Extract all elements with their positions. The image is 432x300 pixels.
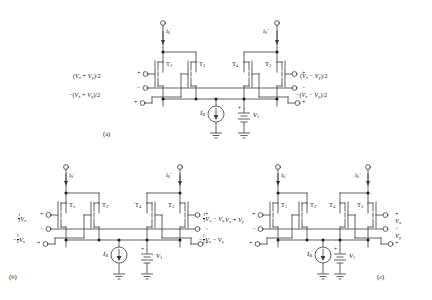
signal-label-a-right-top: (Vx − Vy)/2 [300,73,328,80]
terminal-polarity-plus-c-right-3: + [395,240,398,246]
terminal-polarity-plus-c-left-3: + [249,240,252,246]
voltage-source-plus-a: + [238,106,241,111]
figure-canvas: i0+ i0− T1 T2 T4 T3 + − + (Vx + Vy)/2 [0,0,432,300]
panel-tag-a: (a) [103,131,110,138]
panel-tag-b: (b) [9,274,17,281]
signal-label-b-right-bottom: −12Vx − Vy [199,234,224,245]
panel-tag-c: (c) [377,274,384,281]
panel-c: i0+ i0− T1 T2 T4 T3 + − + Vx + Vy + − [245,155,432,300]
terminal-polarity-minus-c-right-2: − [395,225,398,231]
current-label-i0m-c: i0− [355,172,362,179]
current-label-i0p-a: i0+ [166,28,173,35]
transistor-label-t2-b: T2 [102,202,108,209]
transistor-label-t3-c: T3 [357,202,363,209]
voltage-source-plus-c: + [334,247,337,252]
terminal-polarity-minus-b-left-2: − [40,225,43,231]
transistor-label-t1-b: T1 [69,202,75,209]
signal-label-b-left-bottom: −12Vx [13,234,25,245]
current-source-label-a: IB [200,110,205,117]
transistor-label-t3-a: T3 [265,61,271,68]
transistor-label-t2-a: T2 [199,61,205,68]
panel-b-schematic [0,155,250,300]
current-label-i0m-b: i0− [166,172,173,179]
terminal-polarity-plus-a-left-3: + [134,99,137,105]
signal-label-a-left-top: (Vx + Vy)/2 [73,73,101,80]
signal-label-c-right-vy: Vy [395,233,401,240]
panel-b: i0+ i0− T1 T2 T4 T3 + − + 12Vx −12Vx + − [0,155,250,300]
signal-label-a-right-bottom: −(Vx − Vy)/2 [296,92,327,99]
signal-label-a-left-bottom: −(Vx + Vy)/2 [69,92,100,99]
panel-a-schematic [0,0,432,150]
terminal-polarity-plus-c-left-1: + [252,211,255,217]
terminal-polarity-minus-a-right-2: − [302,84,305,90]
transistor-label-t2-c: T2 [310,202,316,209]
terminal-polarity-minus-b-right-2: − [205,225,208,231]
transistor-label-t3-b: T3 [168,202,174,209]
terminal-polarity-minus-a-left-2: − [137,84,140,90]
panel-a: i0+ i0− T1 T2 T4 T3 + − + (Vx + Vy)/2 [0,0,432,150]
voltage-source-label-b: V1 [156,253,162,260]
voltage-source-plus-b: + [141,247,144,252]
terminal-polarity-minus-c-left-2: − [252,225,255,231]
panel-c-schematic [245,155,432,300]
voltage-source-label-c: V1 [349,253,355,260]
voltage-source-label-a: V1 [253,112,259,119]
signal-label-c-left: Vx + Vy [225,217,244,224]
current-source-label-c: IB [307,251,312,258]
signal-label-b-right-top: 12Vx − Vy [203,213,224,224]
signal-label-c-right-vx: Vx [395,218,401,225]
current-label-i0m-a: i0− [263,28,270,35]
current-source-label-b: IB [103,251,108,258]
terminal-polarity-plus-a-left-1: + [137,70,140,76]
transistor-label-t1-c: T1 [281,202,287,209]
terminal-polarity-plus-b-left-1: + [40,211,43,217]
transistor-label-t1-a: T1 [166,61,172,68]
transistor-label-t4-c: T4 [329,202,335,209]
current-label-i0p-c: i0+ [281,172,288,179]
transistor-label-t4-b: T4 [135,202,141,209]
current-label-i0p-b: i0+ [69,172,76,179]
terminal-polarity-plus-b-left-3: + [37,240,40,246]
terminal-polarity-plus-a-right-3: + [302,99,305,105]
transistor-label-t4-a: T4 [232,61,238,68]
signal-label-b-left-top: 12Vx [18,213,26,224]
